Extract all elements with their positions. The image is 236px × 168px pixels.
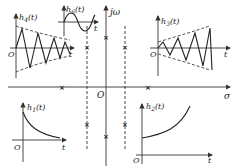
pole-h4-upper: × <box>84 44 90 52</box>
panel-h3: h3(t) O t <box>150 16 230 76</box>
panel-h6: h6(t) t <box>58 5 98 36</box>
svg-text:t: t <box>208 156 212 165</box>
h1-label: h1(t) <box>27 103 45 113</box>
h4-curve <box>16 29 70 68</box>
h2-label: h2(t) <box>146 102 164 112</box>
pole-h6-upper: × <box>103 34 109 42</box>
h4-label: h4(t) <box>19 13 37 23</box>
pole-h4-lower: × <box>84 121 90 129</box>
svg-text:O: O <box>133 156 140 165</box>
jw-axis-label: jω <box>108 7 121 17</box>
panel-h2: h2(t) O t <box>133 102 212 165</box>
panel-h1: h1(t) O t <box>12 103 66 162</box>
svg-text:t: t <box>224 50 228 59</box>
sigma-axis-label: σ <box>224 91 231 101</box>
pole-h3-upper: × <box>122 44 128 52</box>
svg-text:t: t <box>62 143 66 152</box>
pole-location-diagram: σ jω O × × × × × × × × h4(t) O t h6(t) <box>0 0 236 168</box>
svg-text:t: t <box>94 24 98 33</box>
svg-text:t: t <box>69 50 73 59</box>
pole-h3-lower: × <box>122 121 128 129</box>
pole-h6-lower: × <box>103 133 109 141</box>
svg-text:O: O <box>150 50 157 59</box>
s-plane-origin-label: O <box>97 90 105 100</box>
h1-curve <box>23 112 60 138</box>
h3-label: h3(t) <box>161 17 179 27</box>
svg-text:O: O <box>14 143 21 152</box>
pole-h2: × <box>145 84 151 92</box>
svg-text:O: O <box>8 50 15 59</box>
pole-h1: × <box>59 84 65 92</box>
